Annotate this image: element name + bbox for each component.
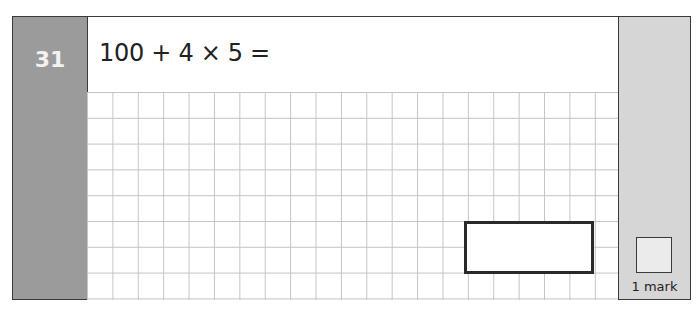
mark-checkbox: [636, 237, 672, 273]
marks-label: 1 mark: [618, 279, 691, 294]
question-number-column: 31: [12, 16, 88, 300]
question-text: 100 + 4 × 5 =: [99, 39, 270, 67]
question-number: 31: [13, 47, 87, 72]
answer-box[interactable]: [464, 221, 594, 274]
